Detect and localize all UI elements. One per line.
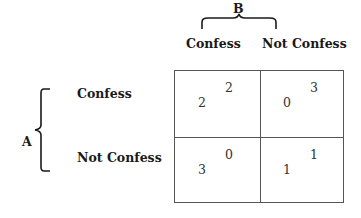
cell-not-confess-confess: 0 3: [175, 138, 260, 204]
payoff-a: 2: [198, 97, 206, 110]
row-strategy-not-confess: Not Confess: [77, 152, 162, 165]
column-strategy-not-confess: Not Confess: [262, 38, 347, 51]
payoff-b: 1: [310, 149, 318, 162]
payoff-a: 3: [198, 164, 206, 177]
payoff-a: 0: [283, 97, 291, 110]
player-b-brace-icon: [200, 14, 280, 30]
payoff-b: 0: [225, 149, 233, 162]
row-strategy-confess: Confess: [77, 88, 132, 101]
payoff-b: 3: [310, 82, 318, 95]
player-a-brace-icon: [33, 88, 53, 172]
payoff-a: 1: [283, 164, 291, 177]
payoff-b: 2: [225, 82, 233, 95]
cell-confess-confess: 2 2: [175, 71, 260, 137]
column-strategy-confess: Confess: [186, 38, 241, 51]
payoff-matrix: 2 2 3 0 0 3 1 1: [174, 70, 344, 203]
cell-confess-not-confess: 3 0: [260, 71, 345, 137]
player-a-label: A: [22, 136, 32, 149]
cell-not-confess-not-confess: 1 1: [260, 138, 345, 204]
